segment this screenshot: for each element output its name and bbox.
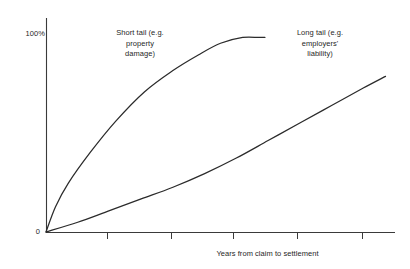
x-axis-title: Years from claim to settlement (185, 249, 350, 258)
annotation-long-tail: Long tail (e.g. employers' liability) (272, 28, 368, 60)
annotation-short-tail: Short tail (e.g. property damage) (92, 28, 188, 60)
y-axis-top-label: 100% (17, 29, 45, 38)
series-line-short-tail (46, 37, 265, 232)
chart-container: 100% 0 Years from claim to settlement Sh… (0, 0, 410, 269)
series-line-long-tail (46, 76, 385, 232)
y-axis-zero-label: 0 (26, 227, 40, 236)
x-axis-ticks (108, 233, 363, 240)
